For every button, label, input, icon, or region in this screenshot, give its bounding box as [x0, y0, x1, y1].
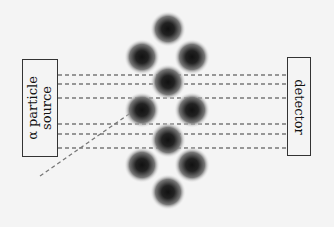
- source-label-line1: α particle: [26, 76, 40, 140]
- nucleus: [150, 64, 186, 100]
- detector-box: detector: [287, 57, 311, 156]
- nucleus: [150, 11, 186, 47]
- nucleus: [124, 147, 160, 183]
- gold-nuclei: [124, 11, 210, 210]
- source-label: α particle source: [26, 76, 54, 140]
- detector-label: detector: [292, 79, 306, 134]
- nucleus: [124, 92, 160, 128]
- nucleus: [124, 39, 160, 75]
- nucleus: [150, 174, 186, 210]
- alpha-particle-source-box: α particle source: [22, 59, 58, 157]
- diagram-canvas: α particle source detector: [0, 0, 334, 227]
- nucleus: [174, 147, 210, 183]
- nucleus: [174, 92, 210, 128]
- source-label-line2: source: [40, 76, 54, 140]
